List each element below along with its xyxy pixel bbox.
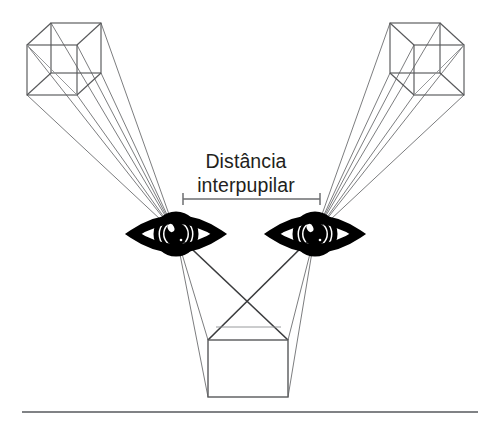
center-square-outline [208, 340, 288, 397]
right-ray-6 [315, 23, 440, 234]
right-ray-2 [315, 95, 464, 234]
left-eye [133, 214, 219, 254]
right-cube-edge-tl [390, 23, 414, 45]
measure-label-line-2: interpupilar [197, 174, 295, 196]
left-converge-outer [176, 234, 208, 397]
left-ray-3 [77, 95, 176, 234]
right-ray-5 [315, 23, 390, 234]
right-cube-edge-tr [440, 23, 464, 45]
right-ray-3 [315, 95, 414, 234]
binocular-vision-diagram: Distância interpupilar [0, 0, 492, 426]
left-cube-edge-tl [27, 23, 51, 45]
measure-label-line-1: Distância [205, 150, 286, 172]
right-eye-highlight-small [319, 239, 322, 242]
right-eye [272, 214, 358, 254]
left-ray-5 [101, 23, 176, 234]
left-cube-edge-bl [27, 73, 51, 95]
center-square [208, 340, 288, 397]
left-eye-highlight-small [180, 239, 183, 242]
left-ray-2 [27, 95, 176, 234]
right-converge-outer [288, 234, 315, 397]
left-cube-edge-tr [77, 23, 101, 45]
left-ray-6 [51, 23, 176, 234]
right-cube-edge-br [440, 73, 464, 95]
figure-canvas: Distância interpupilar [0, 0, 492, 426]
